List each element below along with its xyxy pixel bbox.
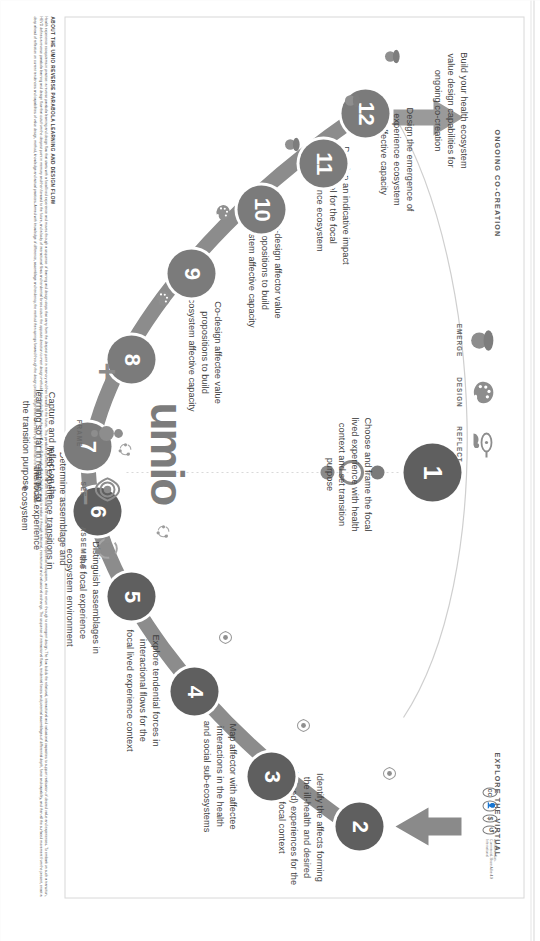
phase-label-ongoing-cocreation: ONGOING CO-CREATION <box>492 129 501 237</box>
node-10-number: 10 <box>248 197 274 220</box>
node-8-caption: Co-design affectee value propositions to… <box>185 289 223 415</box>
legend-emerge-label: EMERGE <box>455 317 462 363</box>
legend-emerge: EMERGE <box>455 317 495 363</box>
node-3-number: 3 <box>258 770 284 782</box>
node-4[interactable]: 4 <box>170 667 218 715</box>
cc-sa-icon: ↺ <box>483 825 498 834</box>
legend-reflect: REFLECT <box>455 421 495 467</box>
footer-about-block: ABOUT THE UMIO REVERSE PARABOLA LEARNING… <box>6 16 54 896</box>
eye-icon-node-3 <box>295 717 311 733</box>
screenshot-frame: 1 Choose and frame the focal lived exper… <box>0 0 540 941</box>
legend-frame: FRAME <box>75 409 123 457</box>
node-11[interactable]: 11 <box>299 139 347 187</box>
legend-reflect-label: REFLECT <box>455 421 462 467</box>
legend-see-label: SEE <box>79 465 86 513</box>
legend-design-label: DESIGN <box>455 369 462 415</box>
page-top-rule-secondary <box>530 0 531 941</box>
cc-by-icon: 👤 <box>483 800 498 811</box>
acorn-icon <box>469 326 495 354</box>
acorn-icon-node-12 <box>383 47 401 65</box>
eye-icon-node-4 <box>217 629 233 645</box>
acorn-icon-node-10 <box>283 135 301 153</box>
legend-frame-label: FRAME <box>75 409 82 457</box>
node-4-caption: Explore tendential forces in interaction… <box>123 629 161 751</box>
poster-canvas: 1 Choose and frame the focal lived exper… <box>64 16 524 898</box>
node-3[interactable]: 3 <box>247 752 295 800</box>
node-1-number: 1 <box>418 465 447 478</box>
node-2[interactable]: 2 <box>335 802 383 850</box>
magnifier-icon <box>469 429 495 459</box>
node-3-caption: Map affector with affectee interactions … <box>200 717 238 835</box>
node-9[interactable]: 9 <box>167 249 215 297</box>
legend-see: SEE <box>79 465 121 513</box>
node-5[interactable]: 5 <box>107 572 155 620</box>
legend-design: DESIGN <box>455 369 495 415</box>
node-9-number: 9 <box>178 267 204 279</box>
acorn-icon-node-11 <box>343 91 361 109</box>
legend-assemble-label: ASSEMBLE <box>79 521 86 575</box>
axis-plus-sign: + <box>88 362 125 381</box>
cc-nc-icon: $ <box>483 814 498 823</box>
page-sheet: 1 Choose and frame the focal lived exper… <box>0 0 540 941</box>
node-11-number: 11 <box>310 152 336 174</box>
node-10[interactable]: 10 <box>237 185 285 233</box>
assemble-icon <box>93 533 121 563</box>
legend-assemble: ASSEMBLE <box>79 521 121 575</box>
eye-icon-node-2 <box>381 765 397 781</box>
umio-logo: umio <box>139 402 193 504</box>
node-5-number: 5 <box>118 590 144 602</box>
node-2-number: 2 <box>346 820 372 832</box>
cc-icon: cc <box>483 787 498 797</box>
palette-icon <box>469 378 495 406</box>
eye-icon <box>93 474 121 504</box>
frame-figure-icon <box>89 423 123 443</box>
palette-icon-node-9 <box>213 203 231 221</box>
node-4-number: 4 <box>181 685 207 697</box>
node-1-caption: Choose and frame the focal lived experie… <box>322 415 373 533</box>
footer-body: Health experience ecosystems in practice… <box>31 16 47 896</box>
palette-icon-node-8 <box>153 289 171 307</box>
node-12-caption: Build your health ecosystem value design… <box>431 47 469 173</box>
rotated-poster-container: 1 Choose and frame the focal lived exper… <box>0 0 540 941</box>
cc-license-text: Attribution-Non-Commercial-Share Alike 4… <box>484 839 497 879</box>
node-1[interactable]: 1 <box>403 443 461 501</box>
assemble-icon-node-5 <box>155 523 171 539</box>
creative-commons-badge: cc 👤 $ ↺ Attribution-Non-Commercial-Shar… <box>475 787 505 879</box>
page-top-rule <box>533 0 534 941</box>
footer-title: ABOUT THE UMIO REVERSE PARABOLA LEARNING… <box>49 16 54 896</box>
